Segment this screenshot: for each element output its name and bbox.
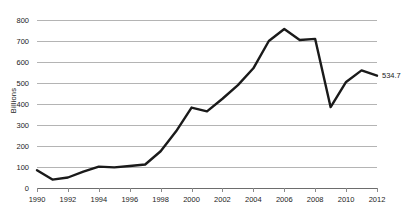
- y-tick-label-700: 700: [16, 37, 29, 46]
- x-tick-2000: [192, 188, 193, 192]
- x-tick-2002: [222, 188, 223, 192]
- x-tick-2004: [253, 188, 254, 192]
- y-tick-label-100: 100: [16, 163, 29, 172]
- x-tick-label-2002: 2002: [214, 195, 231, 204]
- end-value-label: 534.7: [382, 71, 401, 80]
- x-tick-1996: [130, 188, 131, 192]
- y-tick-label-500: 500: [16, 79, 29, 88]
- x-tick-label-2012: 2012: [369, 195, 386, 204]
- x-tick-label-2000: 2000: [183, 195, 200, 204]
- line-chart: Billions 8007006005004003002001000 19901…: [0, 0, 404, 218]
- x-axis-line: [37, 188, 377, 189]
- x-tick-1992: [68, 188, 69, 192]
- series-line: [37, 20, 377, 188]
- y-tick-label-400: 400: [16, 100, 29, 109]
- x-tick-1990: [37, 188, 38, 192]
- x-tick-label-1992: 1992: [60, 195, 77, 204]
- x-tick-2008: [315, 188, 316, 192]
- plot-area: [37, 20, 377, 188]
- x-tick-2012: [377, 188, 378, 192]
- x-tick-1994: [99, 188, 100, 192]
- x-tick-2006: [284, 188, 285, 192]
- x-tick-1998: [161, 188, 162, 192]
- y-tick-label-0: 0: [25, 184, 29, 193]
- y-axis-tick-labels: 8007006005004003002001000: [0, 20, 33, 188]
- x-tick-label-1994: 1994: [90, 195, 107, 204]
- y-tick-label-600: 600: [16, 58, 29, 67]
- x-tick-label-1990: 1990: [29, 195, 46, 204]
- y-tick-label-200: 200: [16, 142, 29, 151]
- y-tick-label-300: 300: [16, 121, 29, 130]
- x-tick-label-2008: 2008: [307, 195, 324, 204]
- x-tick-label-2006: 2006: [276, 195, 293, 204]
- x-tick-label-1998: 1998: [152, 195, 169, 204]
- x-tick-label-1996: 1996: [121, 195, 138, 204]
- y-tick-label-800: 800: [16, 16, 29, 25]
- x-tick-2010: [346, 188, 347, 192]
- x-tick-label-2010: 2010: [338, 195, 355, 204]
- x-tick-label-2004: 2004: [245, 195, 262, 204]
